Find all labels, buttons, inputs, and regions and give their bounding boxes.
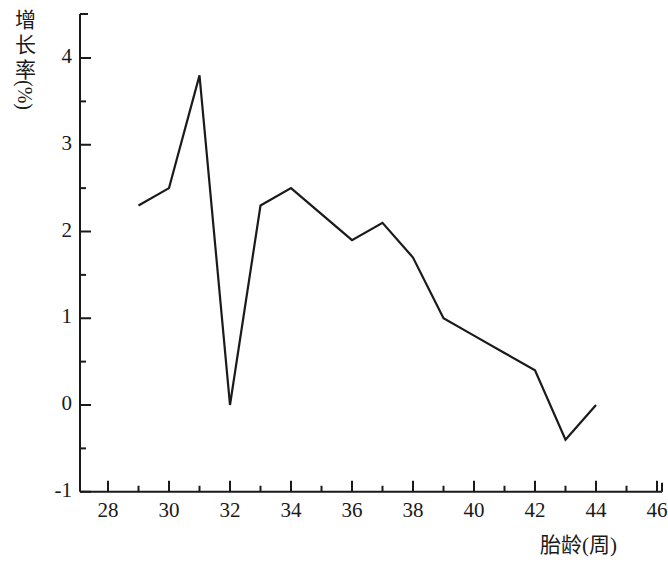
x-tick-label: 46: [634, 498, 668, 523]
plot-area: [0, 0, 668, 571]
y-tick-label: 0: [32, 391, 72, 416]
x-tick-label: 34: [268, 498, 314, 523]
y-tick-label: 2: [32, 218, 72, 243]
y-tick-label: 1: [32, 304, 72, 329]
x-tick-label: 44: [573, 498, 619, 523]
x-tick-label: 36: [329, 498, 375, 523]
x-axis-label: 胎龄(周): [540, 528, 617, 558]
y-tick-label: 4: [32, 44, 72, 69]
x-tick-label: 28: [85, 498, 131, 523]
growth-rate-line-chart: 增 长 率 (%) 胎龄(周) -10123428303234363840424…: [0, 0, 668, 571]
x-tick-label: 42: [512, 498, 558, 523]
y-tick-label: 3: [32, 131, 72, 156]
y-axis-label-unit: (%): [13, 78, 37, 112]
x-tick-label: 38: [390, 498, 436, 523]
x-tick-label: 40: [451, 498, 497, 523]
y-tick-label: -1: [32, 478, 72, 503]
x-tick-label: 32: [207, 498, 253, 523]
y-axis-label-char-0: 增: [8, 8, 42, 33]
data-series-line: [139, 75, 597, 439]
x-tick-label: 30: [146, 498, 192, 523]
